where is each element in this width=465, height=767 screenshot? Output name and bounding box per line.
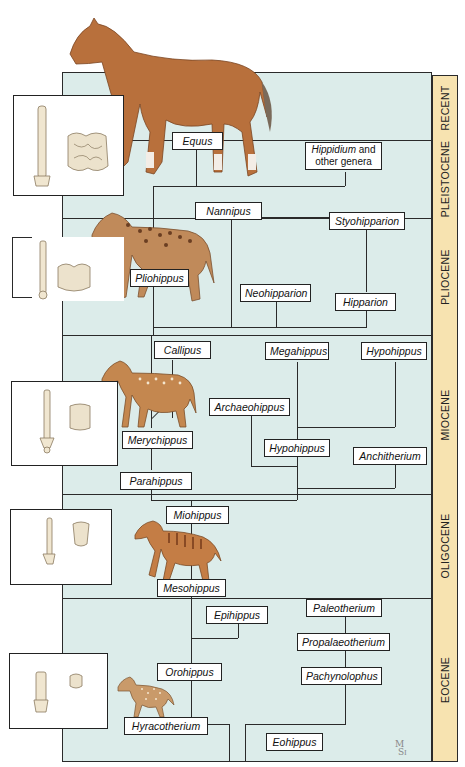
- bracket-pliohippus: [12, 297, 32, 298]
- label-equus: Equus: [172, 132, 223, 150]
- connector: [245, 724, 345, 725]
- label-mesohippus: Mesohippus: [157, 579, 226, 597]
- label-parahippus: Parahippus: [120, 472, 192, 490]
- label-pliohippus: Pliohippus: [130, 269, 189, 287]
- connector: [153, 327, 367, 328]
- connector: [207, 724, 229, 725]
- fossil-panel-pliohippus: [32, 237, 124, 301]
- label-hypohippus-top: Hypohippus: [361, 342, 427, 360]
- fossil-panel-mesohippus: [10, 509, 112, 585]
- label-eohippus: Eohippus: [266, 733, 323, 751]
- foot-bone-and-tooth-icon: [14, 96, 125, 197]
- label-propalaeotherium: Propalaeotherium: [297, 633, 390, 651]
- label-styohipparion: Styohipparion: [329, 212, 405, 230]
- artist-signature: M SI: [395, 740, 407, 757]
- epoch-miocene: MIOCENE: [432, 335, 458, 494]
- bracket-pliohippus: [12, 237, 32, 238]
- fossil-panel-hyracotherium: [9, 653, 108, 729]
- connector: [395, 464, 396, 488]
- label-orohippus: Orohippus: [157, 663, 222, 681]
- foot-bone-and-tooth-icon: [10, 654, 109, 730]
- epoch-pleistocene: PLEISTOCENE: [432, 140, 458, 218]
- label-hipparion: Hipparion: [335, 293, 396, 311]
- connector: [229, 724, 230, 762]
- label-paleotherium: Paleotherium: [306, 599, 382, 617]
- epoch-recent: RECENT: [432, 75, 458, 140]
- connector: [366, 309, 367, 327]
- label-hypohippus: Hypohippus: [264, 439, 330, 457]
- connector: [251, 414, 252, 466]
- connector: [231, 220, 232, 328]
- boundary-miocene-oligocene: [62, 494, 458, 495]
- connector: [345, 172, 346, 186]
- connector: [251, 466, 297, 467]
- bracket-pliohippus: [12, 237, 13, 297]
- boundary-oligocene-eocene: [62, 598, 458, 599]
- epoch-oligocene: OLIGOCENE: [432, 494, 458, 598]
- connector: [395, 362, 396, 427]
- foot-bone-and-tooth-icon: [32, 237, 124, 301]
- foot-bone-and-tooth-icon: [11, 510, 113, 586]
- hyracotherium-horse-illustration: [116, 675, 178, 720]
- fossil-panel-equus: [13, 95, 124, 196]
- label-hippidium-and-other-genera: Hippidium and other genera: [305, 142, 382, 170]
- connector: [366, 228, 367, 292]
- label-miohippus: Miohippus: [166, 506, 229, 524]
- connector: [191, 638, 238, 639]
- label-epihippus: Epihippus: [206, 606, 268, 624]
- connector: [151, 500, 297, 501]
- label-merychippus: Merychippus: [122, 431, 193, 449]
- mesohippus-horse-illustration: [133, 517, 225, 585]
- label-neohipparion: Neohipparion: [240, 284, 311, 302]
- label-archaeohippus: Archaeohippus: [209, 398, 290, 416]
- label-pachynolophus: Pachynolophus: [301, 667, 382, 685]
- fossil-panel-merychippus: [11, 381, 118, 466]
- label-hyracotherium: Hyracotherium: [124, 717, 208, 735]
- label-megahippus: Megahippus: [265, 342, 329, 360]
- foot-bone-and-tooth-icon: [12, 382, 119, 467]
- label-callipus: Callipus: [154, 341, 211, 359]
- connector: [297, 362, 298, 500]
- connector: [245, 724, 246, 762]
- connector: [297, 488, 395, 489]
- connector: [297, 427, 395, 428]
- epoch-pliocene: PLIOCENE: [432, 218, 458, 335]
- epoch-eocene: EOCENE: [432, 598, 458, 762]
- connector: [191, 596, 192, 718]
- connector: [151, 448, 152, 470]
- label-nannipus: Nannipus: [195, 202, 262, 220]
- boundary-pliocene-miocene: [62, 335, 458, 336]
- label-anchitherium: Anchitherium: [353, 447, 427, 465]
- connector: [276, 301, 277, 327]
- connector: [260, 217, 330, 218]
